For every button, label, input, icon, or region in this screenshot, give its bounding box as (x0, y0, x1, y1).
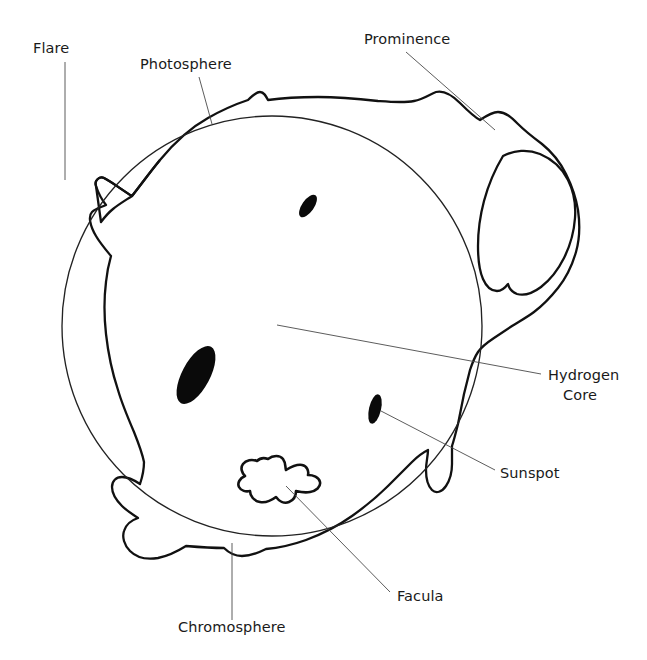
leader-photosphere (199, 77, 212, 124)
sunspot-upper (296, 192, 321, 220)
label-photosphere: Photosphere (140, 56, 232, 72)
sun-anatomy-diagram: Flare Photosphere Prominence Hydrogen Co… (0, 0, 647, 660)
sun-diagram-canvas: Flare Photosphere Prominence Hydrogen Co… (0, 0, 647, 660)
diagram-labels: Flare Photosphere Prominence Hydrogen Co… (33, 31, 619, 635)
leader-sunspot (381, 411, 495, 470)
prominence-shape (478, 151, 575, 295)
prominence-inner-loop (478, 151, 575, 295)
leader-facula (286, 486, 390, 592)
sunspot-lower (366, 393, 384, 425)
sunspot-group (169, 192, 385, 425)
facula-shape (238, 456, 320, 503)
label-hydrogen-core-line1: Hydrogen (548, 367, 619, 383)
label-hydrogen-core-line2: Core (563, 387, 597, 403)
label-chromosphere: Chromosphere (178, 619, 285, 635)
chromosphere-shape (90, 92, 579, 559)
label-facula: Facula (397, 588, 444, 604)
leader-prominence (406, 52, 495, 130)
chromosphere-outer-edge (90, 92, 579, 559)
label-flare: Flare (33, 40, 69, 56)
label-sunspot: Sunspot (500, 465, 560, 481)
sunspot-large (169, 340, 224, 410)
label-prominence: Prominence (364, 31, 450, 47)
leader-lines (65, 52, 541, 620)
